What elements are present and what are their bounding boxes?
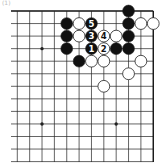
white-stone (86, 55, 98, 67)
go-board: 53412 (0, 0, 164, 168)
black-stone (61, 30, 73, 42)
star-point (40, 47, 43, 50)
white-stone-4: 4 (98, 30, 110, 42)
star-point (40, 122, 43, 125)
black-stone (123, 30, 135, 42)
black-stone (73, 55, 85, 67)
white-stone (147, 18, 159, 30)
black-stone-1: 1 (86, 43, 98, 55)
white-stone (73, 18, 85, 30)
white-stone (98, 55, 110, 67)
black-stone-3: 3 (86, 30, 98, 42)
move-number: 5 (88, 19, 94, 29)
move-number: 3 (88, 31, 94, 41)
star-point (114, 122, 117, 125)
move-number: 4 (101, 31, 107, 41)
black-stone-5: 5 (86, 18, 98, 30)
move-number: 1 (88, 44, 94, 54)
white-stone (73, 30, 85, 42)
move-number: 2 (101, 44, 107, 54)
black-stone (61, 18, 73, 30)
black-stone (123, 43, 135, 55)
black-stone (110, 43, 122, 55)
white-stone-2: 2 (98, 43, 110, 55)
white-stone (123, 68, 135, 80)
black-stone (123, 5, 135, 17)
white-stone (135, 18, 147, 30)
black-stone (61, 43, 73, 55)
white-stone (110, 30, 122, 42)
white-stone (98, 80, 110, 92)
black-stone (123, 18, 135, 30)
white-stone (135, 55, 147, 67)
